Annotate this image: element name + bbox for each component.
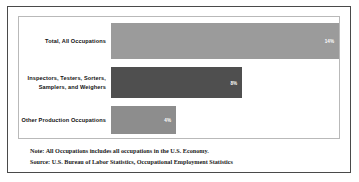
bar-inspectors-testers-sorters: 8% bbox=[111, 67, 242, 98]
bar-category-label: Total, All Occupations bbox=[19, 37, 111, 45]
bar-value-label: 4% bbox=[164, 118, 171, 123]
chart-plot-area: Total, All Occupations 14% Inspectors, T… bbox=[18, 16, 340, 139]
footnote-note: Note: All Occupations includes all occup… bbox=[30, 146, 330, 157]
bar-row: Inspectors, Testers, Sorters, Samplers, … bbox=[19, 67, 339, 98]
footnote-source: Source: U.S. Bureau of Labor Statistics,… bbox=[30, 157, 330, 168]
bar-track: 8% bbox=[111, 67, 339, 98]
bar-row: Total, All Occupations 14% bbox=[19, 23, 339, 59]
bar-category-label: Inspectors, Testers, Sorters, Samplers, … bbox=[19, 74, 111, 90]
chart-footnotes: Note: All Occupations includes all occup… bbox=[30, 146, 330, 167]
bar-track: 14% bbox=[111, 23, 339, 59]
bar-value-label: 14% bbox=[325, 39, 334, 44]
bar-category-label: Other Production Occupations bbox=[19, 116, 111, 124]
bar-row: Other Production Occupations 4% bbox=[19, 106, 339, 134]
bar-other-production-occupations: 4% bbox=[111, 106, 176, 134]
figure-frame: Total, All Occupations 14% Inspectors, T… bbox=[7, 6, 351, 173]
bar-total-all-occupations: 14% bbox=[111, 23, 339, 59]
bar-track: 4% bbox=[111, 106, 339, 134]
bar-value-label: 8% bbox=[230, 80, 237, 85]
